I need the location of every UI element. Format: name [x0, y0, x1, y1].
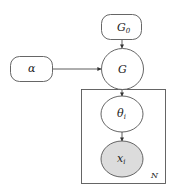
node-alpha-label: α: [28, 62, 36, 75]
plate-diagram: N G0 α G θi xi: [0, 0, 174, 194]
node-g-label: G: [118, 63, 127, 76]
plate-label: N: [150, 171, 159, 180]
